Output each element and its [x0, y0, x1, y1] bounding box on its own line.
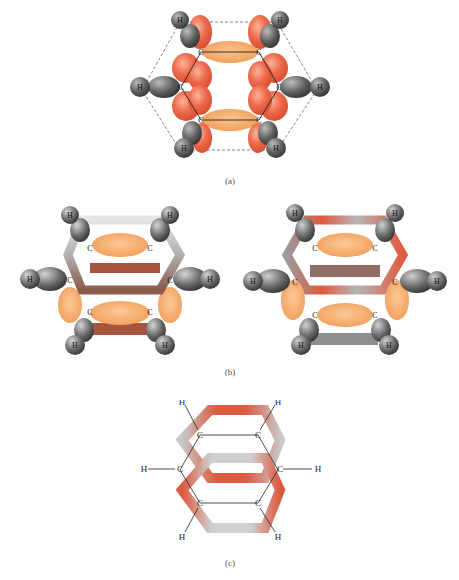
svg-text:H: H	[277, 16, 283, 25]
svg-text:C: C	[276, 83, 281, 92]
svg-text:H: H	[207, 275, 213, 284]
panel-a: CC CC CC HH HH HH	[120, 0, 340, 170]
svg-text:C: C	[67, 276, 72, 285]
svg-text:C: C	[198, 116, 203, 125]
svg-text:H: H	[250, 277, 256, 286]
svg-text:H: H	[434, 277, 440, 286]
caption-c: (c)	[210, 558, 250, 568]
svg-text:H: H	[275, 532, 282, 542]
svg-text:C: C	[312, 244, 317, 253]
svg-text:H: H	[273, 144, 279, 153]
svg-text:C: C	[87, 244, 92, 253]
panel-b-right: CC CC CC HH HH HH	[235, 195, 455, 365]
svg-text:C: C	[147, 308, 152, 317]
svg-text:H: H	[181, 144, 187, 153]
svg-text:C: C	[256, 48, 261, 57]
svg-text:H: H	[167, 211, 173, 220]
svg-text:C: C	[198, 48, 203, 57]
svg-text:H: H	[179, 532, 186, 542]
svg-text:C: C	[197, 498, 203, 508]
svg-text:H: H	[27, 275, 33, 284]
svg-text:C: C	[177, 464, 183, 474]
svg-text:C: C	[392, 278, 397, 287]
svg-text:C: C	[197, 430, 203, 440]
svg-text:H: H	[392, 209, 398, 218]
svg-text:H: H	[315, 464, 322, 474]
pi-overlap-diagram-left: CC CC CC HH HH HH	[10, 195, 230, 365]
svg-text:C: C	[277, 464, 283, 474]
svg-text:C: C	[372, 244, 377, 253]
svg-text:H: H	[162, 341, 168, 350]
svg-text:C: C	[256, 116, 261, 125]
svg-text:C: C	[255, 498, 261, 508]
svg-text:C: C	[372, 311, 377, 320]
pi-cloud-diagram: CC CC CC HH HH HH	[140, 400, 340, 560]
svg-text:H: H	[177, 16, 183, 25]
svg-text:C: C	[87, 308, 92, 317]
svg-text:H: H	[298, 341, 304, 350]
svg-text:H: H	[179, 400, 186, 407]
panel-c: CC CC CC HH HH HH	[140, 400, 340, 560]
svg-text:C: C	[167, 276, 172, 285]
caption-b: (b)	[210, 367, 250, 377]
svg-text:H: H	[137, 83, 143, 92]
svg-text:H: H	[292, 209, 298, 218]
svg-text:C: C	[292, 278, 297, 287]
svg-text:H: H	[275, 400, 282, 407]
svg-text:H: H	[386, 341, 392, 350]
svg-text:H: H	[72, 341, 78, 350]
svg-text:H: H	[141, 464, 148, 474]
svg-text:H: H	[67, 211, 73, 220]
caption-a: (a)	[210, 176, 250, 186]
benzene-orbital-diagram-a: CC CC CC HH HH HH	[120, 0, 340, 170]
svg-text:C: C	[312, 311, 317, 320]
panel-b-left: CC CC CC HH HH HH	[10, 195, 230, 365]
svg-text:H: H	[317, 83, 323, 92]
svg-text:C: C	[147, 244, 152, 253]
svg-text:C: C	[178, 83, 183, 92]
pi-overlap-diagram-right: CC CC CC HH HH HH	[235, 195, 455, 365]
svg-text:C: C	[255, 430, 261, 440]
